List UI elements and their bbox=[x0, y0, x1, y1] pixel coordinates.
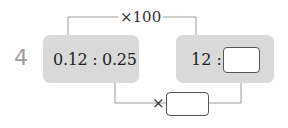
problem-number: 4 bbox=[14, 42, 28, 74]
right-ratio-prefix: 12 : bbox=[191, 50, 222, 70]
left-ratio-text: 0.12 : 0.25 bbox=[53, 50, 137, 70]
multiplier-answer-box[interactable] bbox=[166, 92, 209, 116]
top-operation-label: ×100 bbox=[118, 8, 163, 26]
bottom-operation-label: × bbox=[152, 94, 165, 112]
right-answer-box[interactable] bbox=[223, 47, 260, 73]
